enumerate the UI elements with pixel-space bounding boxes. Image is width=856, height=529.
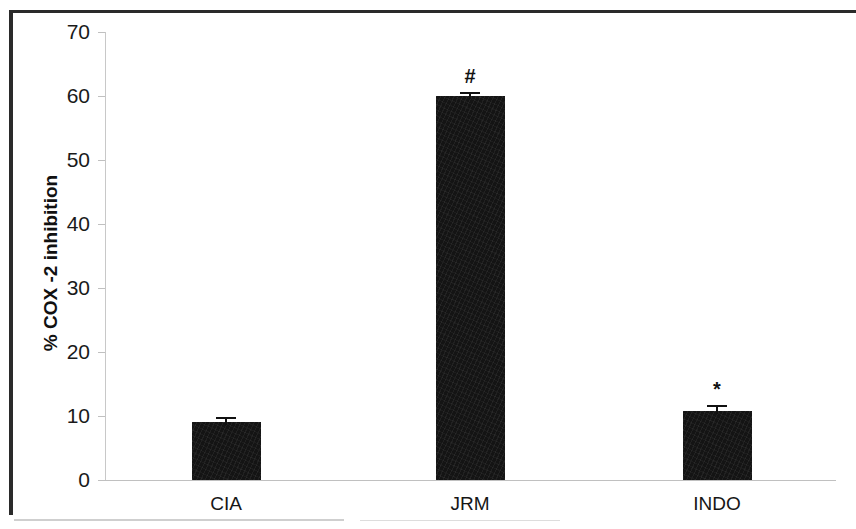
y-axis-tick bbox=[98, 480, 105, 481]
y-axis-title: % COX -2 inhibition bbox=[40, 153, 62, 373]
bar-texture bbox=[192, 422, 261, 480]
y-axis-line bbox=[105, 32, 106, 481]
y-axis-tick-label: 10 bbox=[26, 405, 90, 426]
bar-jrm bbox=[436, 96, 505, 480]
significance-marker-indo: * bbox=[697, 379, 737, 399]
y-axis-tick-label: 40 bbox=[26, 213, 90, 234]
bar-cia bbox=[192, 422, 261, 480]
y-axis-tick bbox=[98, 32, 105, 33]
category-label-indo: INDO bbox=[657, 494, 777, 513]
y-axis-tick bbox=[98, 96, 105, 97]
y-axis-tick-label: 50 bbox=[26, 149, 90, 170]
y-axis-tick-label: 20 bbox=[26, 341, 90, 362]
error-bar-cap-cia bbox=[216, 417, 236, 419]
y-axis-tick bbox=[98, 352, 105, 353]
bar-indo bbox=[683, 411, 752, 480]
y-axis-tick-label: 30 bbox=[26, 277, 90, 298]
y-axis-tick-label: 0 bbox=[26, 469, 90, 490]
y-axis-tick-label: 70 bbox=[26, 21, 90, 42]
error-bar-cap-jrm bbox=[460, 92, 480, 94]
bar-texture bbox=[436, 96, 505, 480]
x-axis-line bbox=[105, 480, 836, 481]
y-axis-tick-label: 60 bbox=[26, 85, 90, 106]
y-axis-tick bbox=[98, 288, 105, 289]
bar-texture bbox=[683, 411, 752, 480]
y-axis-tick bbox=[98, 160, 105, 161]
category-label-cia: CIA bbox=[166, 494, 286, 513]
y-axis-tick bbox=[98, 224, 105, 225]
y-axis-tick bbox=[98, 416, 105, 417]
category-label-jrm: JRM bbox=[410, 494, 530, 513]
error-bar-cap-indo bbox=[707, 405, 727, 407]
significance-marker-jrm: # bbox=[450, 66, 490, 86]
